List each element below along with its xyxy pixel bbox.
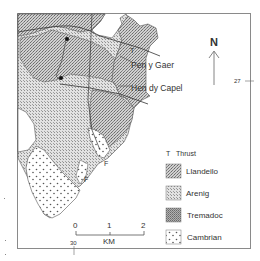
legend-swatch-cambrian <box>166 230 181 244</box>
legend-thrust-symbol: T <box>166 150 171 157</box>
site-hen-dy-capel <box>59 76 63 80</box>
grid-label-easting: 30 <box>70 240 77 246</box>
fault-marker-2: F <box>84 176 88 183</box>
legend-swatch-tremadoc <box>166 208 181 222</box>
margin-mark-2 <box>5 240 6 241</box>
scale-tick-1: 1 <box>107 221 112 230</box>
place-hen-dy-capel: Hen dy Capel <box>131 83 183 93</box>
site-pen-y-gaer <box>65 37 69 41</box>
scale-unit: KM <box>103 237 115 246</box>
legend-thrust-label: Thrust <box>176 150 196 157</box>
legend-label-tremadoc: Tremadoc <box>187 211 223 220</box>
scale-tick-0: 0 <box>73 221 78 230</box>
thrust-marker: T <box>130 47 135 54</box>
grid-label-northing: 27 <box>234 78 241 84</box>
margin-mark-1 <box>4 198 5 199</box>
margin-mark-3 <box>5 254 6 255</box>
scale-tick-2: 2 <box>141 221 146 230</box>
fault-marker-1: F <box>104 160 108 167</box>
north-label: N <box>210 36 218 48</box>
legend-label-arenig: Arenig <box>186 189 209 198</box>
geological-map: T Pen y Gaer Hen dy Capel F F N 27 30 0 … <box>0 0 260 261</box>
place-pen-y-gaer: Pen y Gaer <box>131 60 174 70</box>
legend-label-cambrian: Cambrian <box>187 233 222 242</box>
legend-swatch-arenig <box>166 186 181 200</box>
legend-label-llandeilo: Llandeilo <box>186 167 219 176</box>
legend-swatch-llandeilo <box>166 164 181 178</box>
